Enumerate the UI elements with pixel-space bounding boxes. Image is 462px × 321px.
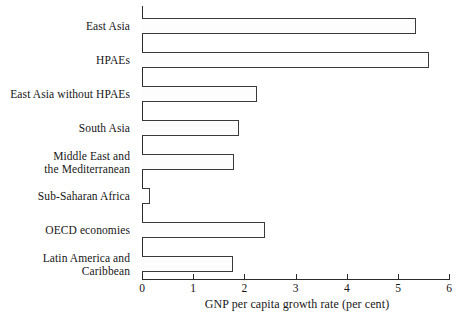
x-tick-label-1: 1 <box>181 282 205 294</box>
x-tick-label-2: 2 <box>232 282 256 294</box>
bar-chart: East Asia HPAEs East Asia without HPAEs … <box>0 0 462 321</box>
category-label-south-asia: South Asia <box>79 122 130 135</box>
x-tick-2 <box>244 274 245 280</box>
bar-sub-saharan-africa <box>142 188 150 204</box>
x-tick-0 <box>142 274 143 280</box>
bar-south-asia <box>142 120 239 136</box>
bar-east-asia <box>142 18 416 34</box>
x-tick-5 <box>398 274 399 280</box>
y-axis-line <box>142 6 143 279</box>
plot-area: 0 1 2 3 4 5 6 <box>142 0 452 281</box>
category-label-middle-east: Middle East and the Mediterranean <box>44 150 130 175</box>
x-tick-label-6: 6 <box>437 282 461 294</box>
bar-latin-america <box>142 256 233 272</box>
x-tick-label-4: 4 <box>335 282 359 294</box>
bar-middle-east <box>142 154 234 170</box>
category-label-hpaes: HPAEs <box>96 54 130 67</box>
x-tick-1 <box>193 274 194 280</box>
x-axis-title: GNP per capita growth rate (per cent) <box>142 297 452 312</box>
bar-east-asia-without-hpaes <box>142 86 257 102</box>
category-label-sub-saharan-africa: Sub-Saharan Africa <box>38 190 130 203</box>
x-tick-4 <box>347 274 348 280</box>
category-label-oecd-economies: OECD economies <box>45 224 130 237</box>
bar-oecd-economies <box>142 222 265 238</box>
x-tick-label-0: 0 <box>130 282 154 294</box>
x-tick-label-5: 5 <box>386 282 410 294</box>
category-label-east-asia-without-hpaes: East Asia without HPAEs <box>10 88 130 101</box>
bar-hpaes <box>142 52 429 68</box>
x-tick-6 <box>449 274 450 280</box>
category-label-latin-america: Latin America and Caribbean <box>43 252 130 277</box>
x-tick-3 <box>296 274 297 280</box>
x-tick-label-3: 3 <box>284 282 308 294</box>
category-labels: East Asia HPAEs East Asia without HPAEs … <box>0 0 136 281</box>
category-label-east-asia: East Asia <box>86 20 130 33</box>
